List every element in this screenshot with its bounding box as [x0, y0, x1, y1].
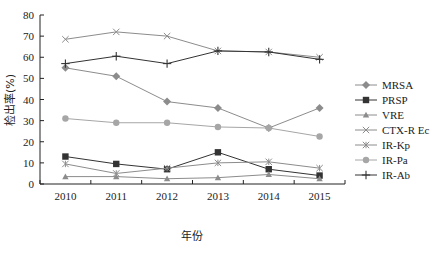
plus-marker-icon	[163, 59, 171, 67]
circle-marker-icon	[113, 120, 119, 126]
series-line	[65, 174, 319, 178]
x-tick-label: 2010	[54, 190, 77, 202]
square-marker-icon	[113, 161, 119, 167]
x-tick-label: 2012	[156, 190, 178, 202]
y-tick-label: 50	[23, 72, 35, 84]
legend: MRSAPRSPVRECTX-R EcIR-KpIR-PaIR-Ab	[355, 79, 429, 181]
series-vre	[62, 171, 323, 181]
series-line	[65, 152, 319, 175]
circle-marker-icon	[62, 115, 68, 121]
legend-item: MRSA	[355, 79, 413, 91]
legend-item: CTX-R Ec	[355, 124, 429, 136]
y-tick-label: 40	[23, 94, 35, 106]
diamond-marker-icon	[214, 104, 222, 112]
legend-label: PRSP	[382, 94, 408, 106]
legend-label: IR-Kp	[382, 139, 411, 151]
y-tick-label: 20	[23, 136, 35, 148]
legend-item: PRSP	[355, 94, 408, 106]
series-line	[65, 119, 319, 137]
legend-item: IR-Kp	[355, 139, 411, 151]
square-legend-icon	[363, 97, 369, 103]
legend-label: CTX-R Ec	[382, 124, 429, 136]
series-line	[65, 68, 319, 128]
y-axis-title: 检出率(%)	[3, 74, 17, 126]
circle-marker-icon	[215, 124, 221, 130]
y-tick-label: 70	[23, 30, 35, 42]
square-marker-icon	[62, 153, 68, 159]
legend-label: IR-Pa	[382, 154, 408, 166]
circle-legend-icon	[363, 157, 369, 163]
legend-item: VRE	[355, 109, 404, 121]
series-ir-pa	[62, 115, 323, 139]
x-tick-label: 2015	[309, 190, 332, 202]
plus-marker-icon	[315, 55, 323, 63]
series-ir-ab	[61, 47, 324, 68]
legend-label: MRSA	[382, 79, 413, 91]
legend-item: IR-Pa	[355, 154, 408, 166]
circle-marker-icon	[164, 120, 170, 126]
diamond-legend-icon	[362, 81, 370, 89]
legend-label: VRE	[382, 109, 404, 121]
y-tick-label: 30	[23, 115, 35, 127]
y-tick-label: 10	[23, 157, 35, 169]
series-ctx-r-ec	[62, 29, 323, 61]
x-tick-label: 2013	[207, 190, 230, 202]
diamond-marker-icon	[316, 104, 324, 112]
y-tick-label: 60	[23, 51, 35, 63]
y-tick-label: 80	[23, 9, 35, 21]
x-tick-label: 2014	[258, 190, 281, 202]
line-chart: 0102030405060708020102011201220132014201…	[0, 0, 443, 254]
circle-marker-icon	[266, 125, 272, 131]
diamond-marker-icon	[112, 72, 120, 80]
series-line	[65, 162, 319, 174]
x-axis-title: 年份	[181, 229, 203, 243]
y-tick-label: 0	[29, 178, 35, 190]
plus-marker-icon	[61, 59, 69, 67]
plot-area	[61, 29, 324, 182]
diamond-marker-icon	[163, 98, 171, 106]
circle-marker-icon	[316, 133, 322, 139]
plus-marker-icon	[112, 52, 120, 60]
plus-legend-icon	[362, 171, 370, 179]
legend-item: IR-Ab	[355, 169, 411, 181]
legend-label: IR-Ab	[382, 169, 411, 181]
x-tick-label: 2011	[105, 190, 127, 202]
square-marker-icon	[215, 149, 221, 155]
